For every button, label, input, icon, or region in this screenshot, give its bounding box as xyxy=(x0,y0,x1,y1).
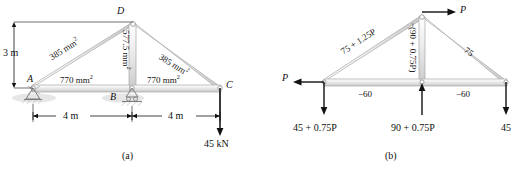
dimension-label-height: 3 m xyxy=(3,48,18,58)
member-area-label-BC: 770 mm2 xyxy=(147,74,180,85)
applied-load-arrow-A-left xyxy=(293,79,324,86)
member-BC xyxy=(130,85,221,92)
reaction-label-B: 90 + 0.75P xyxy=(391,123,435,133)
force-label-BC: −60 xyxy=(456,90,470,99)
dimension-label-span-right: 4 m xyxy=(168,111,183,121)
joint-D xyxy=(131,22,136,27)
figure-a-caption: (a) xyxy=(122,150,133,161)
figure-b-caption: (b) xyxy=(385,150,397,161)
dimension-label-span-left: 4 m xyxy=(63,111,78,121)
force-joint-D xyxy=(420,15,425,20)
member-area-label-BD: 577.5 mm2 xyxy=(121,30,132,70)
reaction-arrow-C-down xyxy=(503,82,510,115)
applied-load-label-A: P xyxy=(282,73,288,83)
figure-a-truss-geometry: D A B C 385 mm2 385 mm2 770 mm2 770 mm2 … xyxy=(0,0,260,171)
applied-load-arrow-D-right xyxy=(422,9,456,16)
joint-label-A: A xyxy=(27,74,33,84)
applied-load-label-D: P xyxy=(460,5,466,15)
reaction-arrow-B-up xyxy=(419,83,426,115)
figure-b-force-diagram: 75 + 1.25P 75 −60 −60 −(90 + 0.75P) P P … xyxy=(260,0,521,171)
force-member-BC xyxy=(421,79,507,86)
member-area-label-AB: 770 mm2 xyxy=(60,74,93,85)
force-member-BD xyxy=(419,17,425,84)
reaction-arrow-A-down xyxy=(321,82,328,115)
figure-b-drawing xyxy=(260,0,521,171)
force-label-BD: −(90 + 0.75P) xyxy=(408,22,417,72)
force-member-AB xyxy=(324,79,421,86)
joint-label-C: C xyxy=(226,80,233,90)
figure-pair-container: D A B C 385 mm2 385 mm2 770 mm2 770 mm2 … xyxy=(0,0,521,171)
load-arrow-45kN xyxy=(217,88,224,136)
reaction-label-A: 45 + 0.75P xyxy=(293,123,337,133)
joint-label-B: B xyxy=(110,92,116,102)
load-label-45kN: 45 kN xyxy=(204,139,229,149)
force-label-AB: −60 xyxy=(358,90,372,99)
reaction-label-C: 45 xyxy=(501,123,511,133)
joint-label-D: D xyxy=(117,6,124,16)
